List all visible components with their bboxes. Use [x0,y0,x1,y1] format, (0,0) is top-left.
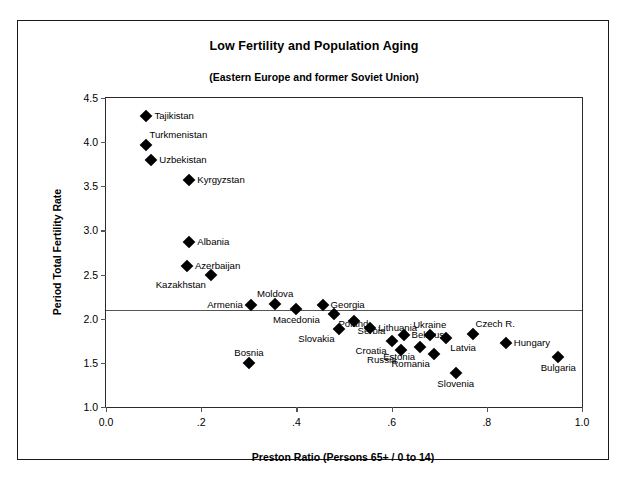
data-point-marker [183,236,196,249]
x-axis-tick-label: .6 [387,416,396,428]
plot-area: 1.01.52.02.53.03.54.04.50.0.2.4.6.81.0Ta… [105,97,583,408]
data-point-label: Bulgaria [541,363,576,373]
x-axis-tick [106,407,107,412]
x-axis-tick-label: 0.0 [99,416,114,428]
data-point-marker [140,138,153,151]
x-axis-tick-label: .2 [197,416,206,428]
data-point-label: Czech R. [476,319,515,329]
y-axis-tick-label: 1.5 [83,357,98,369]
y-axis-tick [101,230,106,231]
data-point-marker [242,356,255,369]
x-axis-tick [201,407,202,412]
x-axis-tick [582,407,583,412]
y-axis-title-text: Period Total Fertility Rate [51,188,63,314]
replacement-fertility-reference-line [106,310,582,311]
data-point-label: Slovenia [437,379,474,389]
y-axis-tick-label: 2.0 [83,313,98,325]
data-point-label: Turkmenistan [149,130,207,140]
x-axis-tick [392,407,393,412]
y-axis-tick [101,98,106,99]
data-point-marker [499,337,512,350]
x-axis-tick [296,407,297,412]
data-point-label: Moldova [257,289,293,299]
y-axis-tick-label: 3.5 [83,180,98,192]
x-axis-tick-label: .8 [482,416,491,428]
data-point-marker [269,297,282,310]
data-point-marker [183,174,196,187]
data-point-label: Uzbekistan [159,155,206,165]
y-axis-tick [101,186,106,187]
chart-title: Low Fertility and Population Aging [18,39,610,53]
data-point-marker [466,327,479,340]
data-point-label: Romania [391,359,429,369]
x-axis-title: Preston Ratio (Persons 65+ / 0 to 14) [105,451,581,463]
data-point-label: Latvia [450,343,476,353]
y-axis-tick [101,275,106,276]
y-axis-tick [101,142,106,143]
y-axis-tick-label: 4.0 [83,136,98,148]
data-point-label: Armenia [207,300,243,310]
y-axis-tick-label: 2.5 [83,269,98,281]
data-point-label: Kazakhstan [156,280,206,290]
data-point-marker [140,109,153,122]
y-axis-tick-label: 1.0 [83,401,98,413]
data-point-label: Albania [197,237,229,247]
x-axis-tick-label: .4 [292,416,301,428]
y-axis-tick-label: 3.0 [83,224,98,236]
y-axis-tick [101,363,106,364]
y-axis-tick [101,319,106,320]
chart-subtitle: (Eastern Europe and former Soviet Union) [18,71,610,83]
data-point-marker [385,334,398,347]
data-point-label: Hungary [514,338,550,348]
data-point-label: Bosnia [234,348,263,358]
data-point-marker [414,341,427,354]
data-point-marker [181,259,194,272]
x-axis-tick [487,407,488,412]
data-point-label: Slovakia [298,334,334,344]
data-point-label: Azerbaijan [195,261,240,271]
x-axis-tick-label: 1.0 [575,416,590,428]
data-point-marker [145,153,158,166]
data-point-label: Ukraine [413,320,446,330]
y-axis-title: Period Total Fertility Rate [49,97,65,406]
data-point-label: Kyrgyzstan [197,175,244,185]
data-point-label: Tajikistan [154,111,193,121]
chart-outer-frame: Low Fertility and Population Aging (East… [17,20,609,460]
y-axis-tick-label: 4.5 [83,92,98,104]
data-point-label: Macedonia [273,315,320,325]
